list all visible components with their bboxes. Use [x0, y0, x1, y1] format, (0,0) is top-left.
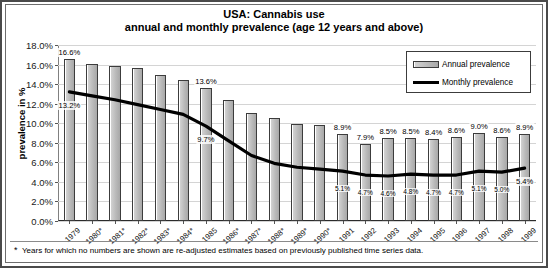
y-tick-label: 10.0%: [26, 118, 53, 129]
x-tick-mark: [274, 221, 275, 224]
line-value-label: 5.0%: [493, 186, 510, 193]
line-value-label: 4.6%: [380, 190, 397, 197]
x-tick-mark: [160, 221, 161, 224]
y-tick-label: 18.0%: [26, 40, 53, 51]
chart-page: USA: Cannabis use annual and monthly pre…: [0, 0, 548, 268]
y-tick-label: 8.0%: [31, 137, 53, 148]
legend-line-swatch-icon: [413, 81, 439, 84]
bar-value-label: 8.9%: [515, 123, 534, 132]
y-axis-title: prevalence in %: [16, 64, 27, 184]
y-tick-label: 6.0%: [31, 157, 53, 168]
x-tick-mark: [479, 221, 480, 224]
line-value-label: 9.7%: [196, 135, 215, 144]
y-tick-label: 2.0%: [31, 196, 53, 207]
x-tick-mark: [411, 221, 412, 224]
chart-legend: Annual prevalence Monthly prevalence: [406, 51, 531, 93]
footnote-text: Years for which no numbers are shown are…: [22, 246, 423, 255]
line-value-label: 5.1%: [471, 185, 488, 192]
chart-subtitle: annual and monthly prevalence (age 12 ye…: [10, 21, 538, 34]
chart-title-block: USA: Cannabis use annual and monthly pre…: [10, 8, 538, 34]
legend-item-monthly: Monthly prevalence: [413, 76, 513, 88]
y-tick-label: 14.0%: [26, 79, 53, 90]
bar-value-label: 8.5%: [378, 127, 397, 136]
x-tick-mark: [434, 221, 435, 224]
bar-value-label: 8.6%: [447, 126, 466, 135]
bar-value-label: 8.4%: [424, 128, 443, 137]
bar-value-label: 13.6%: [194, 77, 218, 86]
legend-item-annual: Annual prevalence: [413, 58, 510, 70]
legend-label-monthly: Monthly prevalence: [442, 78, 513, 87]
x-tick-mark: [206, 221, 207, 224]
x-tick-mark: [502, 221, 503, 224]
y-tick-label: 12.0%: [26, 98, 53, 109]
line-value-label: 13.2%: [58, 101, 82, 110]
y-tick-label: 0.0%: [31, 216, 53, 227]
y-tick-label: 4.0%: [31, 176, 53, 187]
x-tick-mark: [251, 221, 252, 224]
x-tick-mark: [343, 221, 344, 224]
x-tick-mark: [183, 221, 184, 224]
footnote-marker: *: [14, 245, 18, 255]
line-value-label: 4.7%: [425, 189, 442, 196]
x-tick-mark: [92, 221, 93, 224]
x-tick-mark: [138, 221, 139, 224]
x-tick-mark: [525, 221, 526, 224]
x-tick-mark: [388, 221, 389, 224]
legend-label-annual: Annual prevalence: [442, 60, 510, 69]
x-tick-mark: [365, 221, 366, 224]
bar-value-label: 8.9%: [333, 123, 352, 132]
x-tick-mark: [297, 221, 298, 224]
bar-value-label: 8.5%: [401, 127, 420, 136]
x-tick-mark: [229, 221, 230, 224]
y-tick-label: 16.0%: [26, 59, 53, 70]
line-value-label: 4.8%: [402, 188, 419, 195]
bar-value-label: 9.0%: [469, 122, 488, 131]
chart-title: USA: Cannabis use: [10, 8, 538, 21]
footnote-divider: [10, 241, 538, 242]
line-value-label: 4.7%: [448, 189, 465, 196]
legend-bar-swatch-icon: [413, 61, 439, 68]
bar-value-label: 8.6%: [492, 126, 511, 135]
line-value-label: 5.1%: [334, 185, 351, 192]
x-tick-mark: [320, 221, 321, 224]
x-tick-mark: [115, 221, 116, 224]
x-tick-mark: [456, 221, 457, 224]
bar-value-label: 16.6%: [58, 48, 82, 57]
bar-value-label: 7.9%: [356, 133, 375, 142]
line-value-label: 4.7%: [357, 189, 374, 196]
y-tick-mark: [55, 221, 58, 222]
x-tick-mark: [69, 221, 70, 224]
line-value-label: 5.4%: [515, 177, 534, 186]
